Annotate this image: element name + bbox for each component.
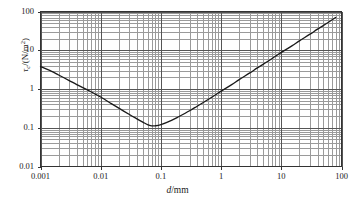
x-axis-unit: /mm — [171, 185, 188, 195]
y-tick-label: 10 — [4, 44, 34, 54]
y-tick-label: 100 — [4, 6, 34, 16]
y-tick-label: 0.1 — [4, 122, 34, 132]
x-tick-label: 0.01 — [81, 171, 121, 181]
y-axis-subscript: c — [24, 66, 31, 69]
x-axis-label: d/mm — [0, 185, 355, 195]
chart-figure: τc/(N/m2) d/mm 0.010.1110100 0.0010.010.… — [0, 0, 355, 207]
x-tick-label: 0.001 — [21, 171, 61, 181]
x-tick-label: 1 — [201, 171, 241, 181]
x-tick-label: 10 — [261, 171, 301, 181]
x-tick-label: 100 — [322, 171, 355, 181]
y-tick-label: 0.01 — [4, 161, 34, 171]
y-axis-symbol: τ — [20, 69, 30, 72]
x-tick-label: 0.1 — [141, 171, 181, 181]
y-axis-unit-end: ) — [20, 38, 30, 41]
y-tick-label: 1 — [4, 83, 34, 93]
